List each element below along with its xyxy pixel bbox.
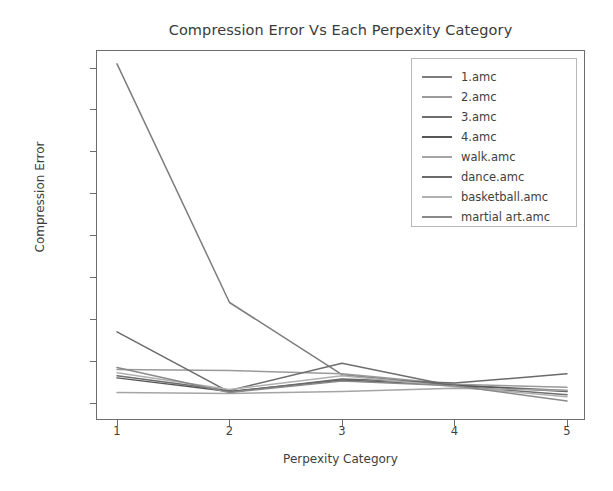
legend-item[interactable]: 1.amc (412, 66, 576, 87)
legend-item[interactable]: dance.amc (412, 166, 576, 187)
chart-legend: 1.amc2.amc3.amc4.amcwalk.amcdance.amcbas… (411, 58, 577, 227)
legend-item[interactable]: walk.amc (412, 146, 576, 167)
legend-item[interactable]: basketball.amc (412, 186, 576, 207)
x-tick-label: 4 (451, 424, 458, 438)
legend-item[interactable]: martial art.amc (412, 206, 576, 227)
legend-label: walk.amc (461, 150, 516, 164)
legend-line-icon (422, 96, 452, 98)
legend-label: dance.amc (461, 170, 524, 184)
x-tick-label: 3 (338, 424, 345, 438)
legend-item[interactable]: 4.amc (412, 126, 576, 147)
legend-item[interactable]: 3.amc (412, 106, 576, 127)
x-tick-label: 1 (113, 424, 120, 438)
legend-line-icon (422, 136, 452, 138)
legend-line-icon (422, 176, 452, 178)
legend-line-icon (422, 216, 452, 218)
x-tick-label: 5 (563, 424, 570, 438)
chart-figure: Compression Error Vs Each Perpexity Cate… (0, 0, 613, 491)
legend-line-icon (422, 196, 452, 198)
legend-line-icon (422, 76, 452, 78)
x-tick-label: 2 (226, 424, 233, 438)
legend-label: basketball.amc (461, 190, 548, 204)
legend-line-icon (422, 156, 452, 158)
legend-label: 2.amc (461, 90, 497, 104)
legend-label: martial art.amc (461, 210, 550, 224)
x-axis-label: Perpexity Category (96, 452, 585, 466)
y-axis-label: Compression Error (33, 97, 47, 297)
legend-item[interactable]: 2.amc (412, 86, 576, 107)
legend-label: 3.amc (461, 110, 497, 124)
legend-line-icon (422, 116, 452, 118)
legend-label: 4.amc (461, 130, 497, 144)
chart-title: Compression Error Vs Each Perpexity Cate… (96, 22, 585, 38)
legend-label: 1.amc (461, 70, 497, 84)
